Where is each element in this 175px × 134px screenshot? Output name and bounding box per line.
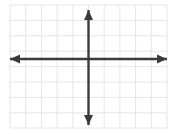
- coordinate-plane-figure: [0, 0, 175, 134]
- coordinate-plane-screenshot: [0, 0, 175, 134]
- plot-area: [0, 0, 175, 134]
